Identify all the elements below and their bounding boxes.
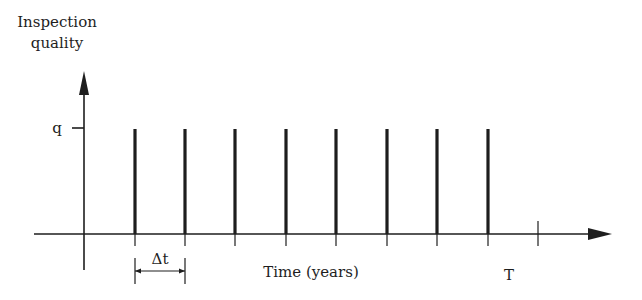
x-axis xyxy=(34,228,612,240)
interval-label: Δt xyxy=(152,250,169,268)
y-axis-label-line2: quality xyxy=(31,34,84,52)
inspection-bars xyxy=(135,129,488,234)
inspection-diagram: Inspection quality q xyxy=(0,0,642,300)
end-time-label: T xyxy=(504,266,514,284)
x-axis-arrow-icon xyxy=(588,228,612,240)
y-axis-arrow-icon xyxy=(79,71,89,95)
x-axis-label: Time (years) xyxy=(263,263,359,281)
y-axis-label-line1: Inspection xyxy=(17,13,97,31)
q-tick-label: q xyxy=(52,119,62,137)
y-axis xyxy=(72,71,89,270)
